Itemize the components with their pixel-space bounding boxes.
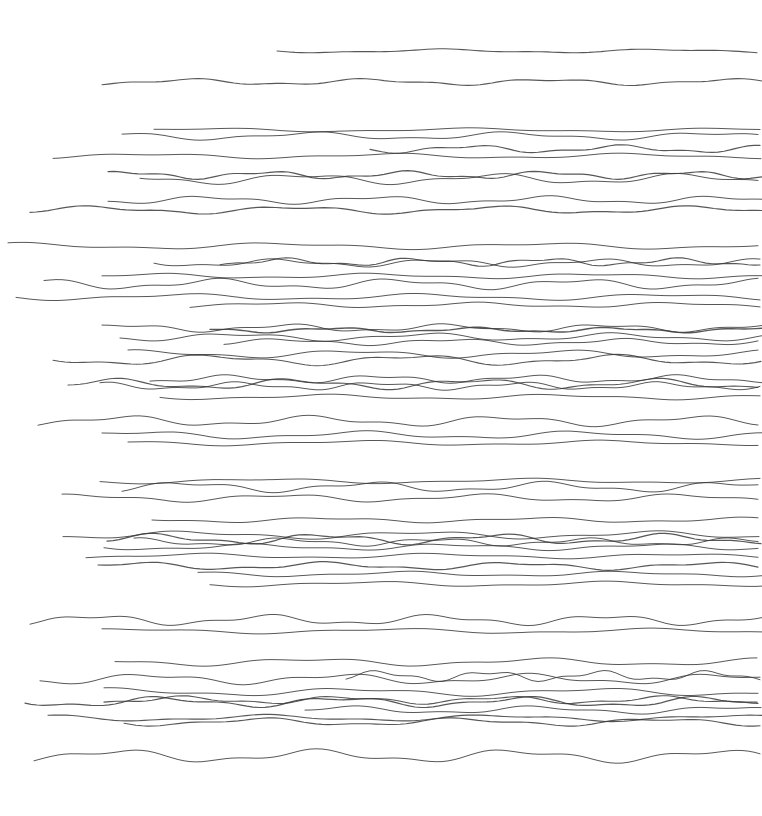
wavy-line: [107, 533, 761, 545]
wavy-line: [16, 294, 760, 301]
wavy-line: [53, 354, 761, 365]
wavy-line: [104, 543, 758, 550]
wavy-line: [44, 278, 758, 289]
wavy-line: [86, 553, 758, 559]
wavy-line: [115, 658, 757, 666]
wavy-line: [102, 431, 762, 440]
wavy-line: [120, 333, 762, 342]
wavy-line: [277, 49, 757, 53]
wavy-line: [30, 206, 762, 214]
wavy-line: [108, 196, 762, 205]
wavy-line: [100, 478, 760, 484]
wavy-line: [102, 79, 762, 86]
wavy-line: [152, 517, 758, 523]
wavy-line: [104, 688, 758, 697]
wavy-line: [154, 128, 760, 132]
wavy-lines-group: [8, 49, 762, 763]
wavy-line: [8, 242, 758, 249]
wavy-line: [140, 173, 758, 184]
wavy-line: [38, 415, 758, 426]
wavy-line: [34, 749, 760, 763]
wavy-line: [53, 153, 761, 159]
wavy-line: [30, 615, 762, 626]
wavy-line: [128, 440, 758, 446]
wavy-line: [124, 718, 760, 726]
wavy-line: [190, 302, 760, 307]
wavy-line: [108, 171, 762, 180]
wavy-line: [102, 628, 762, 634]
wavy-line: [98, 562, 758, 571]
wavy-line: [160, 394, 760, 400]
wavy-line: [210, 327, 762, 333]
wavy-line: [25, 697, 757, 708]
wavy-line: [305, 706, 761, 714]
wavy-line: [102, 273, 762, 279]
line-drawing: [0, 0, 762, 816]
wavy-line: [122, 481, 758, 492]
wavy-line: [210, 581, 762, 587]
wavy-line: [62, 494, 758, 503]
wavy-line: [346, 671, 760, 682]
wavy-line: [370, 145, 760, 154]
wavy-line: [198, 571, 762, 577]
wavy-line: [40, 673, 760, 685]
wavy-line: [122, 132, 758, 140]
